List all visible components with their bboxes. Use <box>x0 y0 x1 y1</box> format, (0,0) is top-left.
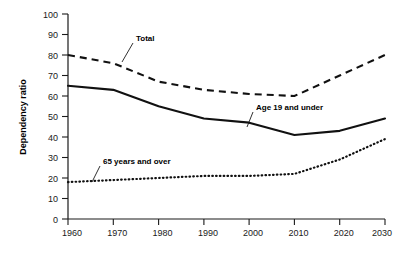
x-axis-tick-labels: 1960 1970 1980 1990 2000 2010 2020 2030 <box>62 228 392 238</box>
annotation-label-age-19-and-under: Age 19 and under <box>256 103 323 112</box>
y-axis-tick-labels: 100 90 80 70 60 50 40 30 20 10 0 <box>43 10 58 225</box>
dependency-ratio-chart: 100 90 80 70 60 50 40 30 20 10 0 1960 19… <box>0 0 407 256</box>
chart-canvas: 100 90 80 70 60 50 40 30 20 10 0 1960 19… <box>0 0 407 256</box>
y-tick-label: 90 <box>48 30 58 40</box>
y-tick-label: 80 <box>48 51 58 61</box>
series-line-age-19-and-under <box>68 86 385 135</box>
x-tick-label: 1970 <box>107 228 127 238</box>
x-tick-label: 1990 <box>198 228 218 238</box>
y-tick-label: 70 <box>48 71 58 81</box>
x-tick-label: 2010 <box>288 228 308 238</box>
y-tick-label: 60 <box>48 92 58 102</box>
y-axis-title: Dependency ratio <box>18 79 28 155</box>
y-tick-label: 50 <box>48 112 58 122</box>
x-tick-label: 2020 <box>334 228 354 238</box>
annotation-label-65-years-and-over: 65 years and over <box>103 157 171 166</box>
y-axis-ticks <box>62 14 68 219</box>
x-tick-label: 2000 <box>243 228 263 238</box>
annotation-label-total: Total <box>136 34 155 43</box>
y-tick-label: 10 <box>48 194 58 204</box>
x-axis-ticks <box>68 219 385 225</box>
annotation-leader-65-years-and-over <box>92 166 100 182</box>
y-tick-label: 40 <box>48 133 58 143</box>
annotation-leader-age-19-and-under <box>247 112 253 127</box>
y-tick-label: 30 <box>48 153 58 163</box>
y-tick-label: 0 <box>53 215 58 225</box>
x-tick-label: 2030 <box>372 228 392 238</box>
x-tick-label: 1960 <box>62 228 82 238</box>
y-tick-label: 20 <box>48 174 58 184</box>
annotation-leader-total <box>122 43 133 62</box>
y-tick-label: 100 <box>43 10 58 20</box>
x-tick-label: 1980 <box>153 228 173 238</box>
